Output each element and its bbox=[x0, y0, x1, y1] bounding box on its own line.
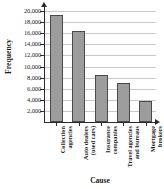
x-axis-tick-label-line: Auto dealers bbox=[82, 126, 89, 160]
bar-series bbox=[44, 11, 156, 122]
y-axis-tick-mark bbox=[40, 33, 44, 34]
x-axis-tick-label-line: companies bbox=[112, 126, 119, 172]
y-axis-tick-mark bbox=[40, 55, 44, 56]
x-axis-tick-mark bbox=[101, 123, 102, 126]
y-axis-tick-label: 8,000 bbox=[8, 75, 41, 81]
x-axis-tick-label-line: (used cars) bbox=[89, 126, 96, 172]
y-axis-tick-label: 2,000 bbox=[8, 108, 41, 114]
x-axis-tick-label: Collectionagencies bbox=[60, 126, 73, 172]
y-axis-tick-mark bbox=[40, 89, 44, 90]
x-axis-title: Cause bbox=[44, 176, 156, 185]
y-axis-tick-mark bbox=[40, 44, 44, 45]
bar-chart: Frequency 2,0004,0006,0008,00010,00012,0… bbox=[0, 0, 164, 189]
x-axis-tick-label: Insurancecompanies bbox=[105, 126, 118, 172]
y-axis-arrow-icon bbox=[41, 2, 47, 7]
y-axis-tick-label: 12,000 bbox=[8, 52, 41, 58]
x-axis-tick-label-line: Mortgage bbox=[149, 126, 156, 152]
y-axis-tick-labels: 2,0004,0006,0008,00010,00012,00014,00016… bbox=[8, 10, 41, 125]
y-axis-tick-mark bbox=[40, 111, 44, 112]
x-axis-tick-label-line: Insurance bbox=[104, 126, 111, 153]
x-axis-tick-label-line: and bureaus bbox=[134, 126, 141, 172]
y-axis-tick-mark bbox=[40, 67, 44, 68]
y-axis-tick-label: 6,000 bbox=[8, 86, 41, 92]
bar bbox=[50, 15, 63, 122]
y-axis-tick-label: 20,000 bbox=[8, 8, 41, 14]
bar bbox=[72, 31, 85, 122]
bar bbox=[117, 83, 130, 122]
x-axis-tick-label: Auto dealers(used cars) bbox=[83, 126, 96, 172]
x-axis-tick-label-line: brokers bbox=[156, 126, 163, 172]
y-axis-tick-label: 14,000 bbox=[8, 41, 41, 47]
y-axis-tick-label: 4,000 bbox=[8, 97, 41, 103]
x-axis-tick-mark bbox=[146, 123, 147, 126]
y-axis-tick-label: 16,000 bbox=[8, 30, 41, 36]
y-axis-tick-mark bbox=[40, 22, 44, 23]
y-axis-tick-mark bbox=[40, 100, 44, 101]
x-axis-tick-mark bbox=[123, 123, 124, 126]
y-axis-tick-label: 18,000 bbox=[8, 19, 41, 25]
x-axis-tick-label: Travel agenciesand bureaus bbox=[127, 126, 140, 172]
x-axis-tick-mark bbox=[79, 123, 80, 126]
x-axis-tick-label-line: agencies bbox=[67, 126, 74, 172]
bar bbox=[95, 75, 108, 122]
y-axis-tick-mark bbox=[40, 78, 44, 79]
bar bbox=[139, 101, 152, 122]
y-axis-tick-mark bbox=[40, 11, 44, 12]
x-axis-line bbox=[44, 122, 156, 123]
y-axis-tick-label: 10,000 bbox=[8, 64, 41, 70]
x-axis-tick-labels: CollectionagenciesAuto dealers(used cars… bbox=[44, 126, 156, 174]
x-axis-tick-label: Mortgagebrokers bbox=[150, 126, 163, 172]
x-axis-tick-mark bbox=[56, 123, 57, 126]
